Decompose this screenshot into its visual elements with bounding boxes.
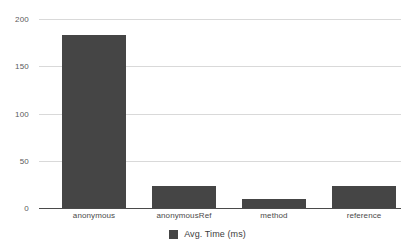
gridline-200	[39, 19, 401, 20]
bar-chart: 200 150 100 50 0 anonymous anonymousRef …	[0, 0, 415, 252]
y-tick-label-0: 0	[24, 204, 29, 213]
y-tick-label-200: 200	[15, 15, 29, 24]
bar-anonymousRef[interactable]	[152, 186, 216, 208]
x-tick-label-method: method	[260, 211, 287, 220]
x-tick-label-anonymous: anonymous	[73, 211, 115, 220]
legend-swatch-icon	[169, 230, 178, 239]
x-tick-label-anonymousRef: anonymousRef	[156, 211, 211, 220]
x-axis: anonymous anonymousRef method reference	[39, 211, 401, 225]
y-axis: 200 150 100 50 0	[0, 0, 33, 252]
chart-legend: Avg. Time (ms)	[0, 229, 415, 239]
x-tick-label-reference: reference	[347, 211, 382, 220]
bar-method[interactable]	[242, 199, 306, 208]
x-axis-line	[39, 208, 401, 209]
plot-area	[39, 19, 401, 208]
bar-reference[interactable]	[332, 186, 396, 208]
y-tick-label-100: 100	[15, 109, 29, 118]
bar-anonymous[interactable]	[62, 35, 126, 208]
y-tick-label-150: 150	[15, 62, 29, 71]
y-tick-label-50: 50	[20, 156, 29, 165]
legend-label-avg-time: Avg. Time (ms)	[184, 229, 246, 239]
